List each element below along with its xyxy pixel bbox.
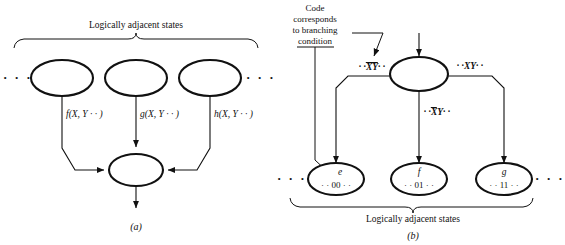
annotation-line-1: Code [306, 4, 325, 13]
edge-label-f: f(X, Y · · ) [66, 110, 103, 120]
edge-branch-to-e [336, 76, 390, 163]
branch-state-shape [390, 57, 448, 91]
brace-label-b: Logically adjacent states [366, 215, 460, 225]
branch-label-right-suffix: · · [476, 62, 483, 72]
panel-a-graphics [14, 33, 258, 208]
merge-state-shape [109, 154, 163, 186]
brace-bottom-b [290, 198, 533, 213]
state-e-label: e [338, 168, 342, 178]
annotation-leader-to-e [315, 47, 330, 174]
branch-label-left-bar: XY [366, 62, 378, 73]
state-middle-shape [105, 60, 167, 96]
state-f-label: f [418, 168, 421, 178]
right-ellipsis-a: · · · [246, 71, 276, 84]
state-e-code: · · 00 · · [321, 181, 351, 190]
branch-label-right-plain: XY [464, 62, 476, 72]
edge-branch-to-g [448, 76, 504, 163]
state-g-code: · · 11 · · [489, 181, 519, 190]
brace-label-a: Logically adjacent states [89, 21, 183, 31]
annotation-leader-to-label [352, 33, 383, 56]
edge-right-to-merge [168, 96, 210, 170]
branch-label-middle-suffix: · · [443, 108, 450, 118]
annotation-line-4: condition [298, 37, 332, 46]
branch-label-left: · ·XY· · [359, 62, 385, 73]
left-ellipsis-b: · · · [277, 172, 307, 185]
annotation-line-3: to branching [292, 26, 337, 35]
branch-label-middle: · ·XY· · [424, 107, 450, 118]
branch-label-left-suffix: · · [378, 63, 385, 73]
edge-label-g: g(X, Y · · ) [140, 110, 179, 120]
state-e-shape [308, 163, 364, 195]
state-f-code: · · 01 · · [404, 181, 434, 190]
branch-label-right: · ·XY· · [457, 62, 483, 72]
edge-label-h: h(X, Y · · ) [214, 110, 253, 120]
left-ellipsis-a: · · · [3, 71, 33, 84]
state-g-label: g [502, 168, 507, 178]
state-right-shape [179, 60, 241, 96]
panel-a-caption: (a) [130, 222, 142, 232]
annotation-line-2: corresponds [293, 15, 337, 24]
brace-top-a [14, 33, 258, 48]
state-left-shape [31, 60, 93, 96]
panel-b-caption: (b) [407, 231, 419, 241]
right-ellipsis-b: · · · [535, 172, 565, 185]
edge-left-to-merge [62, 96, 104, 170]
